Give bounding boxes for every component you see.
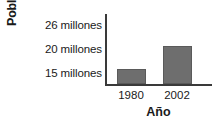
y-tick-label-15: 15 millones bbox=[26, 67, 102, 79]
x-tick-label-1980: 1980 bbox=[108, 89, 154, 102]
population-bar-chart: Población 26 millones 20 millones 15 mil… bbox=[0, 0, 217, 126]
plot-area bbox=[105, 14, 212, 86]
y-axis-line bbox=[105, 14, 107, 86]
bar-2002 bbox=[163, 46, 192, 84]
x-axis-line bbox=[105, 84, 212, 86]
y-tick-label-26: 26 millones bbox=[26, 19, 102, 31]
x-tick-label-2002: 2002 bbox=[154, 89, 200, 102]
y-axis-title: Población bbox=[2, 0, 22, 34]
x-axis-title: Año bbox=[105, 105, 212, 119]
y-tick-label-20: 20 millones bbox=[26, 43, 102, 55]
y-axis-tick-labels: 26 millones 20 millones 15 millones bbox=[24, 0, 102, 126]
bar-1980 bbox=[117, 69, 146, 84]
